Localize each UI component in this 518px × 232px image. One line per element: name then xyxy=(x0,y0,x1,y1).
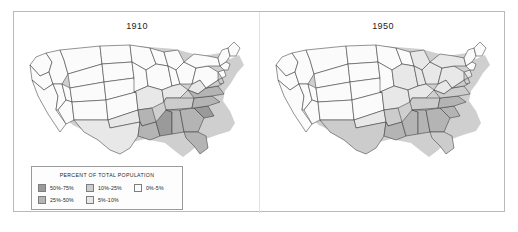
panel-title-1950: 1950 xyxy=(260,21,506,31)
legend-items: 50%-75% 10%-25% 0%-5% 25%-50% 5%-10% xyxy=(38,182,180,206)
legend-label-25-50: 25%-50% xyxy=(50,197,74,203)
map-legend: PERCENT OF TOTAL POPULATION 50%-75% 10%-… xyxy=(31,166,183,210)
legend-item-50-75: 50%-75% xyxy=(38,184,86,192)
panel-title-1910: 1910 xyxy=(14,21,260,31)
map-panel-1910: 1910 xyxy=(14,12,260,213)
legend-label-50-75: 50%-75% xyxy=(50,185,74,191)
map-panel-1950: 1950 xyxy=(260,12,506,213)
legend-item-0-5: 0%-5% xyxy=(134,184,180,192)
legend-label-10-25: 10%-25% xyxy=(98,185,122,191)
legend-swatch-25-50 xyxy=(38,196,46,204)
legend-swatch-10-25 xyxy=(86,184,94,192)
us-map-1910 xyxy=(22,36,254,161)
legend-label-5-10: 5%-10% xyxy=(98,197,119,203)
legend-item-25-50: 25%-50% xyxy=(38,196,86,204)
legend-title: PERCENT OF TOTAL POPULATION xyxy=(32,172,182,178)
legend-label-0-5: 0%-5% xyxy=(146,185,164,191)
legend-item-10-25: 10%-25% xyxy=(86,184,134,192)
legend-swatch-0-5 xyxy=(134,184,142,192)
legend-item-5-10: 5%-10% xyxy=(86,196,134,204)
legend-swatch-50-75 xyxy=(38,184,46,192)
figure-frame: 1910 xyxy=(13,11,505,212)
us-map-1950 xyxy=(268,36,500,161)
legend-swatch-5-10 xyxy=(86,196,94,204)
